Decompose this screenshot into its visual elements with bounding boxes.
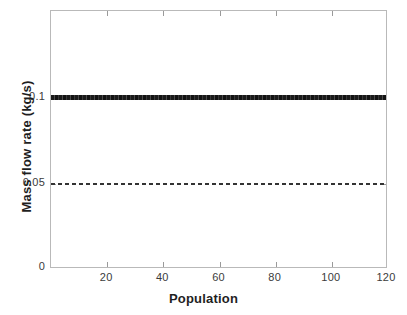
series-mean-fitness-line: [51, 183, 386, 185]
plot-area: [50, 10, 387, 268]
x-tick-mark-top-120: [386, 11, 387, 16]
x-axis-title: Population: [0, 291, 407, 306]
x-tick-mark-80: [276, 262, 277, 267]
y-tick-mark-0: [51, 267, 56, 268]
x-tick-mark-40: [163, 262, 164, 267]
series-best-fitness-markers: [51, 95, 386, 100]
y-axis-title: Mass flow rate (kg/s): [19, 57, 34, 237]
x-tick-mark-top-20: [107, 11, 108, 16]
x-tick-mark-top-60: [220, 11, 221, 16]
y-tick-label-0: 0: [25, 260, 45, 272]
x-tick-label-80: 80: [268, 271, 281, 283]
x-tick-mark-top-80: [276, 11, 277, 16]
x-tick-mark-top-40: [163, 11, 164, 16]
chart-figure: 20 40 60 80 100 120 0.1 0.05 0 Populatio…: [0, 0, 407, 315]
x-tick-label-40: 40: [156, 271, 169, 283]
y-tick-mark-right-0: [381, 267, 386, 268]
x-tick-mark-20: [107, 262, 108, 267]
x-tick-label-60: 60: [212, 271, 225, 283]
x-tick-mark-120: [386, 262, 387, 267]
x-tick-label-120: 120: [377, 271, 396, 283]
x-tick-label-20: 20: [100, 271, 113, 283]
x-tick-mark-100: [332, 262, 333, 267]
x-tick-label-100: 100: [321, 271, 340, 283]
x-tick-mark-60: [220, 262, 221, 267]
x-tick-mark-top-100: [332, 11, 333, 16]
